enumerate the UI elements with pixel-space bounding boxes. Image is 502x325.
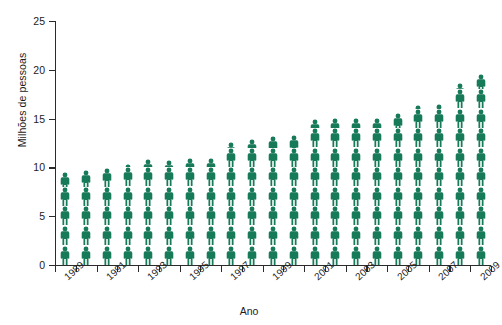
person-icon <box>453 128 467 148</box>
person-icon <box>453 187 467 207</box>
person-icon <box>58 245 72 265</box>
pictogram-column <box>224 21 238 265</box>
person-icon <box>79 187 93 207</box>
person-icon <box>370 226 384 246</box>
pictogram-column <box>432 21 446 265</box>
person-icon <box>266 226 280 246</box>
person-icon <box>141 167 155 187</box>
person-icon <box>183 226 197 246</box>
x-tick <box>387 266 388 272</box>
pictogram-column <box>266 21 280 265</box>
person-icon <box>432 187 446 207</box>
person-icon <box>411 128 425 148</box>
person-icon <box>266 148 280 168</box>
x-tick <box>180 266 181 272</box>
person-icon <box>370 128 384 148</box>
pictogram-column <box>121 21 135 265</box>
x-tick <box>470 266 471 272</box>
person-icon <box>100 226 114 246</box>
pictogram-column <box>100 21 114 265</box>
person-icon <box>453 148 467 168</box>
person-icon <box>349 245 363 265</box>
person-icon <box>100 245 114 265</box>
pictogram-column <box>411 21 425 265</box>
person-icon <box>349 187 363 207</box>
person-icon <box>370 148 384 168</box>
person-icon-partial <box>391 113 405 129</box>
person-icon <box>162 226 176 246</box>
person-icon <box>183 167 197 187</box>
person-icon-partial <box>245 139 259 148</box>
pictogram-column <box>287 21 301 265</box>
person-icon <box>474 245 488 265</box>
person-icon <box>162 206 176 226</box>
person-icon <box>204 187 218 207</box>
person-icon <box>349 148 363 168</box>
person-icon <box>391 148 405 168</box>
person-icon <box>100 187 114 207</box>
pictogram-column <box>79 21 93 265</box>
person-icon <box>453 109 467 129</box>
person-icon <box>474 226 488 246</box>
person-icon <box>266 167 280 187</box>
person-icon <box>411 148 425 168</box>
person-icon <box>245 206 259 226</box>
person-icon <box>308 148 322 168</box>
person-icon <box>474 109 488 129</box>
person-icon-partial <box>411 105 425 109</box>
person-icon-partial <box>266 136 280 148</box>
person-icon <box>245 148 259 168</box>
person-icon <box>58 187 72 207</box>
person-icon-partial <box>121 164 135 167</box>
x-tick <box>263 266 264 272</box>
person-icon <box>349 128 363 148</box>
person-icon <box>349 167 363 187</box>
person-icon <box>308 167 322 187</box>
x-axis-title: Ano <box>0 305 498 317</box>
person-icon <box>183 187 197 207</box>
person-icon <box>224 226 238 246</box>
person-icon-partial <box>100 168 114 187</box>
person-icon <box>432 109 446 129</box>
person-icon <box>370 206 384 226</box>
person-icon <box>121 226 135 246</box>
person-icon <box>453 89 467 109</box>
person-icon-partial <box>162 160 176 168</box>
person-icon <box>224 206 238 226</box>
person-icon <box>224 167 238 187</box>
x-tick <box>55 266 56 272</box>
person-icon <box>224 245 238 265</box>
person-icon <box>391 226 405 246</box>
person-icon <box>432 206 446 226</box>
person-icon <box>245 187 259 207</box>
pictogram-column <box>474 21 488 265</box>
person-icon <box>162 167 176 187</box>
pictogram-column <box>453 21 467 265</box>
person-icon <box>287 167 301 187</box>
pictogram-column <box>308 21 322 265</box>
person-icon <box>266 206 280 226</box>
person-icon-partial <box>453 83 467 89</box>
person-icon <box>204 167 218 187</box>
person-icon-partial <box>204 158 218 168</box>
person-icon <box>79 206 93 226</box>
person-icon-partial <box>308 119 322 129</box>
person-icon <box>287 148 301 168</box>
person-icon <box>432 226 446 246</box>
pictogram-column <box>349 21 363 265</box>
person-icon <box>391 206 405 226</box>
person-icon <box>453 226 467 246</box>
person-icon <box>266 245 280 265</box>
person-icon <box>474 148 488 168</box>
pictogram-column <box>162 21 176 265</box>
person-icon <box>370 167 384 187</box>
person-icon <box>474 128 488 148</box>
x-tick <box>346 266 347 272</box>
person-icon <box>432 167 446 187</box>
person-icon <box>328 187 342 207</box>
person-icon-partial <box>432 104 446 109</box>
person-icon <box>204 226 218 246</box>
person-icon <box>287 226 301 246</box>
person-icon <box>474 167 488 187</box>
person-icon-partial <box>349 118 363 129</box>
